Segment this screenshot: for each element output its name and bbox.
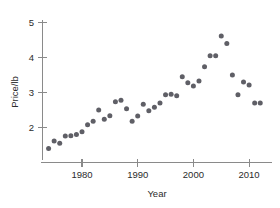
x-tick-label-2010: 2010 [239,169,260,180]
data-point [80,129,85,134]
data-point [63,134,68,139]
x-axis-title: Year [147,188,166,199]
data-point [146,108,151,113]
x-axis-ticks: 1980 1990 2000 2010 [71,159,259,181]
data-point [191,83,196,88]
data-point [91,119,96,124]
data-point [74,132,79,137]
data-point [141,102,146,107]
data-point [57,141,62,146]
data-point [219,33,224,38]
data-point [208,53,213,58]
data-point [130,119,135,124]
data-points-group [46,33,263,151]
y-axis-title: Price/lb [9,76,20,108]
data-point [213,53,218,58]
plot-area: 5 4 3 2 1980 1990 2000 2010 Year Price/l… [0,0,280,208]
y-tick-label-5: 5 [29,17,34,28]
data-point [52,138,57,143]
data-point [174,93,179,98]
data-point [102,117,107,122]
data-point [68,133,73,138]
data-point [224,41,229,46]
data-point [169,92,174,97]
data-point [152,105,157,110]
data-point [252,101,257,106]
x-tick-label-1990: 1990 [127,169,148,180]
data-point [157,101,162,106]
y-tick-label-4: 4 [29,52,34,63]
data-point [202,64,207,69]
data-point [85,122,90,127]
data-point [247,82,252,87]
data-point [107,113,112,118]
data-point [96,108,101,113]
data-point [180,74,185,79]
y-axis-ticks: 5 4 3 2 [29,17,47,133]
data-point [196,79,201,84]
x-tick-label-2000: 2000 [183,169,204,180]
data-point [135,114,140,119]
data-point [46,146,51,151]
data-point [235,92,240,97]
y-tick-label-2: 2 [29,122,34,133]
data-point [163,92,168,97]
data-point [258,101,263,106]
y-tick-label-3: 3 [29,87,34,98]
scatter-chart: 5 4 3 2 1980 1990 2000 2010 Year Price/l… [0,0,280,208]
data-point [118,98,123,103]
data-point [185,80,190,85]
data-point [124,106,129,111]
data-point [241,80,246,85]
data-point [113,99,118,104]
data-point [230,73,235,78]
x-tick-label-1980: 1980 [71,169,92,180]
